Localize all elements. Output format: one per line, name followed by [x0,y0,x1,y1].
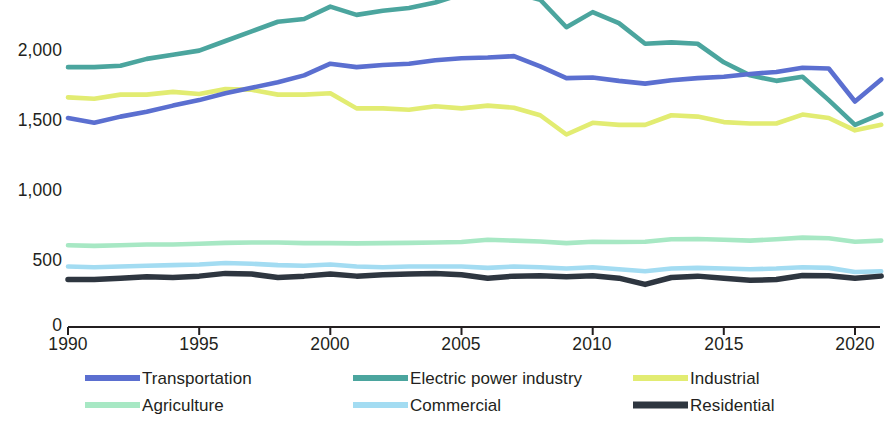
legend-label-transportation: Transportation [142,369,252,389]
series-line-commercial [68,263,881,272]
y-tick-label-500: 500 [0,250,62,271]
series-line-agriculture [68,238,881,246]
x-tick-label-1995: 1995 [159,334,239,355]
x-tick-label-2015: 2015 [684,334,764,355]
series-line-industrial [68,89,881,134]
legend-label-agriculture: Agriculture [142,396,224,416]
x-tick-label-2000: 2000 [290,334,370,355]
y-tick-label-1500: 1,500 [0,110,62,131]
x-tick-label-2010: 2010 [552,334,632,355]
x-tick-label-1990: 1990 [28,334,108,355]
series-layer [68,0,881,284]
legend-label-industrial: Industrial [690,369,759,389]
legend-label-commercial: Commercial [410,396,501,416]
y-tick-label-0: 0 [0,315,62,336]
x-tick-label-2005: 2005 [421,334,501,355]
y-tick-label-2000: 2,000 [0,40,62,61]
legend-label-electric-power-industry: Electric power industry [410,369,582,389]
series-line-transportation [68,56,881,123]
y-tick-label-1000: 1,000 [0,180,62,201]
x-tick-label-2020: 2020 [815,334,890,355]
plot-area [0,0,890,423]
legend-label-residential: Residential [690,396,775,416]
line-chart: 2,000 1,500 1,000 500 0 1990 1995 2000 2… [0,0,890,423]
series-line-residential [68,273,881,284]
